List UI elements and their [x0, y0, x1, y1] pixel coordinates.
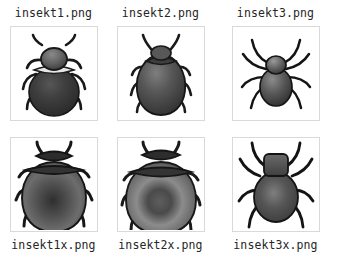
- thumbnail-image-box[interactable]: [10, 26, 98, 121]
- beetle-teardrop-zoom-icon: [119, 140, 203, 230]
- thumbnail-label: insekt2x.png: [118, 238, 202, 252]
- thumbnail-label: insekt3x.png: [233, 238, 317, 252]
- beetle-round-dark-icon: [12, 29, 96, 119]
- beetle-round-dark-zoom-icon: [12, 140, 96, 230]
- spider-zoom-icon: [234, 140, 318, 230]
- thumbnail-label: insekt3.png: [237, 6, 314, 20]
- thumbnail-cell[interactable]: insekt1.png: [0, 6, 107, 121]
- thumbnail-image-box[interactable]: [117, 137, 205, 232]
- thumbnail-image-box[interactable]: [117, 26, 205, 121]
- thumbnail-cell[interactable]: insekt2.png: [107, 6, 214, 121]
- thumbnail-image-box[interactable]: [232, 26, 320, 121]
- beetle-teardrop-icon: [119, 29, 203, 119]
- thumbnail-cell[interactable]: insekt3.png: [222, 6, 329, 121]
- thumbnail-image-box[interactable]: [10, 137, 98, 232]
- thumbnail-cell[interactable]: insekt3x.png: [222, 137, 329, 252]
- thumbnail-label: insekt2.png: [122, 6, 199, 20]
- thumbnail-label: insekt1x.png: [11, 238, 95, 252]
- thumbnail-cell[interactable]: insekt2x.png: [107, 137, 214, 252]
- spider-icon: [234, 29, 318, 119]
- thumbnail-cell[interactable]: insekt1x.png: [0, 137, 107, 252]
- image-thumbnail-grid: insekt1.png: [0, 0, 345, 262]
- thumbnail-label: insekt1.png: [15, 6, 92, 20]
- thumbnail-image-box[interactable]: [232, 137, 320, 232]
